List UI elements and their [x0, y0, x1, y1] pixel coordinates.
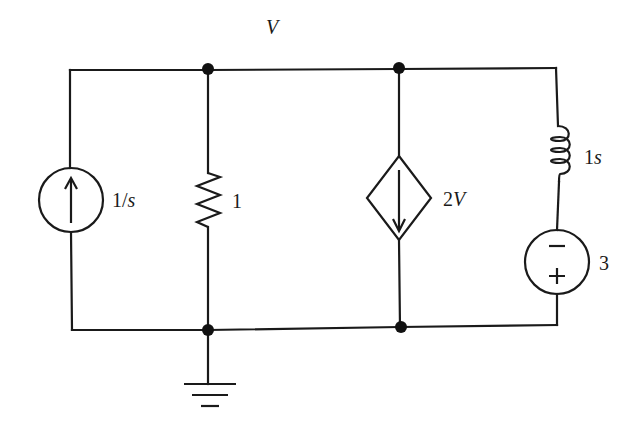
voltage-source-circle: [525, 230, 589, 294]
top-node-1: [202, 63, 214, 75]
bottom-node-2: [395, 321, 407, 333]
dependent-source-lead-bottom: [399, 240, 400, 327]
bottom-node-1: [202, 324, 214, 336]
top-wire: [70, 68, 556, 70]
resistor-zigzag: [197, 173, 220, 227]
inductor-lead-bottom: [557, 182, 559, 230]
current-source-lead-bottom: [71, 232, 72, 330]
dependent-source-label: 2V: [443, 188, 468, 210]
arrow-down-icon: [393, 170, 405, 231]
circuit-diagram: V 1/s 1 2V 1s: [0, 0, 639, 433]
voltage-source: 3: [525, 230, 609, 325]
current-source: 1/s: [39, 70, 136, 330]
ground-icon: [184, 330, 236, 406]
arrow-up-icon: [65, 178, 77, 223]
plus-sign-icon: [549, 268, 565, 284]
bottom-wire: [72, 325, 557, 330]
inductor-label: 1s: [584, 146, 602, 168]
current-source-label: 1/s: [112, 189, 136, 211]
voltage-source-label: 3: [599, 252, 609, 274]
top-node-2: [393, 62, 405, 74]
resistor-label: 1: [232, 190, 242, 212]
resistor: 1: [197, 70, 242, 330]
inductor: 1s: [551, 68, 602, 230]
inductor-lead-top: [556, 68, 558, 126]
node-voltage-label: V: [266, 16, 281, 38]
inductor-coil: [551, 126, 570, 182]
dependent-current-source: 2V: [367, 69, 468, 327]
